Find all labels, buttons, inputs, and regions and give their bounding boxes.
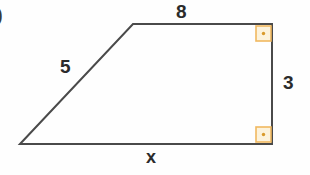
- side-label-bottom-unknown: x: [146, 148, 156, 166]
- right-angle-marker-bottom-right: [256, 127, 271, 142]
- geometry-figure: ) 8 5 3 x: [0, 0, 310, 175]
- right-angle-dot-bottom-right: [262, 133, 265, 136]
- side-label-right: 3: [283, 73, 294, 92]
- right-angle-dot-top-right: [262, 32, 265, 35]
- right-angle-marker-top-right: [256, 26, 271, 41]
- side-label-left-slant: 5: [60, 57, 71, 76]
- side-label-top: 8: [176, 2, 187, 21]
- trapezoid-outline: [20, 24, 272, 144]
